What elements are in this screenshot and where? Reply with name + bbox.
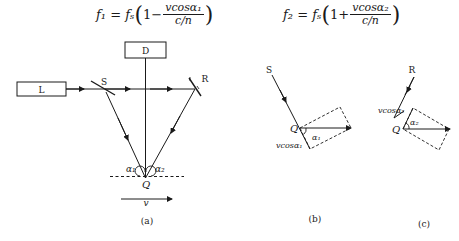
- reflector-hatch: [197, 86, 199, 89]
- laser-label: L: [39, 85, 45, 95]
- diagram-b: S α₁ Q vcosα₁ (b): [266, 65, 351, 224]
- component-label: vcosα₁: [276, 141, 303, 150]
- angle-label: α₁: [312, 133, 321, 142]
- point-q-label: Q: [392, 124, 400, 135]
- reflected-arrow: [171, 116, 180, 133]
- angle-label: α₂: [410, 118, 419, 127]
- component-label: vcosα₂: [378, 106, 405, 115]
- caption-c: (c): [418, 219, 430, 229]
- angle-arc: [406, 123, 409, 129]
- diagram-c: R α₂ Q vcosα₂ (c): [378, 65, 450, 229]
- reflected-beam: [146, 89, 196, 178]
- angle-arc: [304, 128, 306, 134]
- source-s-label: S: [266, 65, 272, 75]
- caption-a: (a): [141, 216, 153, 226]
- incident-arrow: [280, 90, 286, 102]
- diagram-canvas: D L S R α₁ α₂ Q v (a): [0, 0, 459, 241]
- angle1-label: α₁: [126, 164, 136, 174]
- detector-label: D: [142, 46, 149, 56]
- caption-b: (b): [309, 214, 322, 224]
- splitter-label: S: [101, 77, 107, 87]
- velocity-label: v: [143, 198, 148, 208]
- angle2-label: α₂: [155, 164, 165, 174]
- source-r-label: R: [409, 65, 416, 75]
- incident-arrow: [118, 118, 128, 140]
- point-q-label: Q: [142, 179, 150, 190]
- diagram-a: D L S R α₁ α₂ Q v (a): [17, 42, 209, 226]
- reflector-label: R: [202, 74, 209, 84]
- reflector-mirror: [189, 78, 201, 96]
- point-q-label: Q: [290, 123, 298, 134]
